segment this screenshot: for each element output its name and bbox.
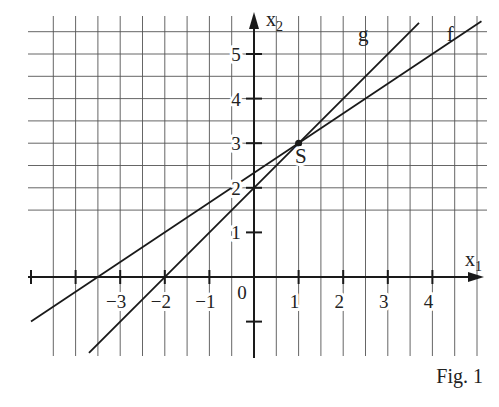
x-axis-label: x1 xyxy=(465,248,482,274)
x-tick-label: 4 xyxy=(424,291,434,312)
x-tick-label: −2 xyxy=(151,291,171,312)
y-tick-label: 1 xyxy=(231,222,241,243)
line-label-f: f xyxy=(447,22,454,46)
labels: −3−2−11234123450x1x2fgSFig. 1 xyxy=(106,8,483,388)
x-axis-label-subscript: 1 xyxy=(475,259,482,274)
y-axis-arrow xyxy=(249,12,259,29)
coordinate-plot: −3−2−11234123450x1x2fgSFig. 1 xyxy=(0,0,499,407)
y-tick-label: 3 xyxy=(231,133,241,154)
x-tick-label: 3 xyxy=(379,291,389,312)
y-tick-label: 5 xyxy=(231,44,241,65)
figure-caption: Fig. 1 xyxy=(436,365,483,388)
line-label-g: g xyxy=(358,22,369,46)
origin-label: 0 xyxy=(237,282,247,303)
y-tick-label: 2 xyxy=(231,178,241,199)
point-label-S: S xyxy=(295,144,307,168)
x-tick-label: −3 xyxy=(106,291,126,312)
y-tick-label: 4 xyxy=(231,89,241,110)
x-tick-label: 1 xyxy=(290,291,300,312)
y-axis-label: x2 xyxy=(266,8,283,34)
x-tick-label: −1 xyxy=(195,291,215,312)
x-tick-label: 2 xyxy=(334,291,344,312)
grid xyxy=(28,16,487,356)
y-axis-label-subscript: 2 xyxy=(276,19,283,34)
